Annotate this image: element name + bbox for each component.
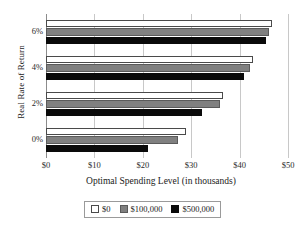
legend-label: $100,000 (131, 204, 163, 214)
bar (46, 128, 186, 136)
legend-item[interactable]: $100,000 (120, 204, 163, 214)
x-tick-label: $50 (268, 160, 307, 170)
bar-group (46, 122, 288, 158)
x-tick-label: $20 (123, 160, 163, 170)
bar-group (46, 14, 288, 50)
gray-swatch (120, 205, 128, 213)
y-tick-label: 0% (1, 134, 43, 144)
x-tick-label: $10 (74, 160, 114, 170)
x-axis-title: Optimal Spending Level (in thousands) (36, 176, 286, 186)
bar (46, 64, 250, 72)
bar (46, 56, 253, 64)
black-swatch (171, 205, 179, 213)
bar (46, 92, 223, 100)
legend-item[interactable]: $0 (91, 204, 111, 214)
x-axis-tick-labels: $0$10$20$30$40$50 (46, 160, 288, 174)
legend-label: $500,000 (182, 204, 214, 214)
bar (46, 28, 269, 36)
bar (46, 145, 148, 153)
bar (46, 73, 244, 81)
y-tick-label: 2% (1, 98, 43, 108)
bar (46, 109, 202, 117)
legend-item[interactable]: $500,000 (171, 204, 214, 214)
bar (46, 136, 178, 144)
legend-label: $0 (102, 204, 111, 214)
bar-chart: Real Rate of Return 0%2%4%6% $0$10$20$30… (0, 0, 307, 227)
white-swatch (91, 205, 99, 213)
y-axis-tick-labels: 0%2%4%6% (0, 14, 43, 158)
bar-group (46, 50, 288, 86)
x-tick-label: $40 (220, 160, 260, 170)
gridline (288, 14, 289, 158)
plot-area (46, 14, 288, 158)
x-tick-label: $30 (171, 160, 211, 170)
chart-legend: $0$100,000$500,000 (84, 201, 221, 218)
bar (46, 20, 272, 28)
bar (46, 37, 266, 45)
bar-group (46, 86, 288, 122)
y-tick-label: 6% (1, 26, 43, 36)
y-tick-label: 4% (1, 62, 43, 72)
bar (46, 100, 220, 108)
x-tick-label: $0 (26, 160, 66, 170)
